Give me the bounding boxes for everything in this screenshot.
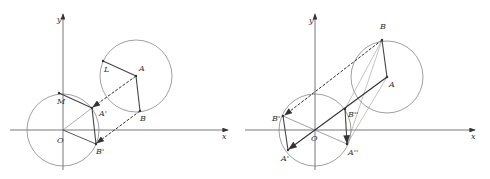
- label-b: B: [379, 22, 386, 31]
- label-a-prime: A': [98, 109, 107, 118]
- label-l: L: [103, 65, 109, 74]
- segment-b-a2: [347, 40, 382, 144]
- diagram-canvas: x y O A L B M A' B' x y O: [0, 0, 490, 179]
- segment-b2-a2: [345, 109, 347, 143]
- translation-arrow-a: [289, 77, 387, 149]
- x-axis-label: x: [222, 132, 227, 141]
- arrow-a-b2: [346, 77, 387, 108]
- segment-o-b1: [63, 130, 96, 144]
- segment-b-b2: [345, 40, 382, 109]
- label-b-prime: B': [271, 114, 280, 123]
- y-axis-label: y: [56, 15, 62, 24]
- segment-b-a: [382, 40, 387, 77]
- label-b-double-prime: B'': [347, 110, 358, 119]
- origin-label: O: [57, 136, 64, 145]
- origin-label: O: [311, 134, 318, 143]
- right-figure: x y O B A B' A' B'' A'': [245, 14, 476, 170]
- label-m: M: [56, 97, 66, 106]
- point-markers: [282, 39, 388, 151]
- left-figure: x y O A L B M A' B': [10, 14, 228, 170]
- x-axis-label: x: [471, 132, 476, 141]
- translation-arrow-a: [93, 76, 136, 107]
- segment-o-a1: [63, 108, 92, 130]
- translation-arrow-b: [285, 40, 382, 115]
- label-a-double-prime: A'': [347, 148, 358, 157]
- segment-a1-b1: [92, 108, 96, 144]
- segment-b1-a1: [283, 116, 288, 150]
- label-b-prime: B': [95, 147, 104, 156]
- label-a: A: [388, 80, 395, 89]
- label-b: B: [139, 114, 146, 123]
- rotation-diagrams: x y O A L B M A' B' x y O: [0, 0, 490, 179]
- label-a-prime: A': [280, 154, 289, 163]
- y-axis-label: y: [308, 16, 314, 25]
- label-a: A: [138, 64, 145, 73]
- segment-a-b: [136, 76, 140, 111]
